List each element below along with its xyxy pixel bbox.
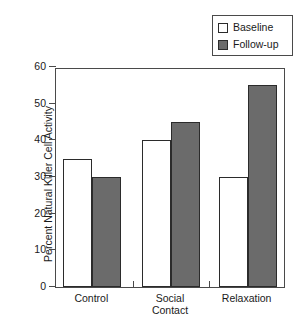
y-tick: 0 [49,286,56,287]
y-tick-label: 0 [40,280,46,292]
x-axis-label-line: Relaxation [202,292,292,304]
bar [248,85,277,287]
y-tick-label: 30 [34,170,46,182]
y-tick: 10 [49,249,56,250]
y-tick-label: 10 [34,243,46,255]
x-axis-label-line: Contact [125,304,215,316]
bar [219,177,248,287]
bar-chart: Baseline Follow-up Percent Natural Kille… [0,0,304,329]
group-separator-tick [133,281,134,287]
y-tick: 50 [49,103,56,104]
y-tick-label: 40 [34,133,46,145]
legend-swatch-baseline-icon [218,23,228,33]
legend-item-followup: Follow-up [218,36,292,53]
legend-label-followup: Follow-up [233,39,279,50]
legend-label-baseline: Baseline [233,22,273,33]
plot-area: 0102030405060 [55,68,285,288]
bar [142,140,171,287]
group-separator-tick [209,281,210,287]
x-axis-label: Relaxation [202,292,292,304]
bar [63,159,92,287]
chart-legend: Baseline Follow-up [212,15,293,56]
y-tick-label: 60 [34,60,46,72]
y-tick: 60 [49,66,56,67]
y-tick: 30 [49,176,56,177]
bar [92,177,121,287]
y-tick-label: 50 [34,97,46,109]
legend-item-baseline: Baseline [218,19,292,36]
bar [171,122,200,287]
y-tick: 20 [49,213,56,214]
y-tick-label: 20 [34,207,46,219]
y-tick: 40 [49,139,56,140]
legend-swatch-followup-icon [218,40,228,50]
x-axis-label-line: Control [46,292,136,304]
x-axis-label: Control [46,292,136,304]
